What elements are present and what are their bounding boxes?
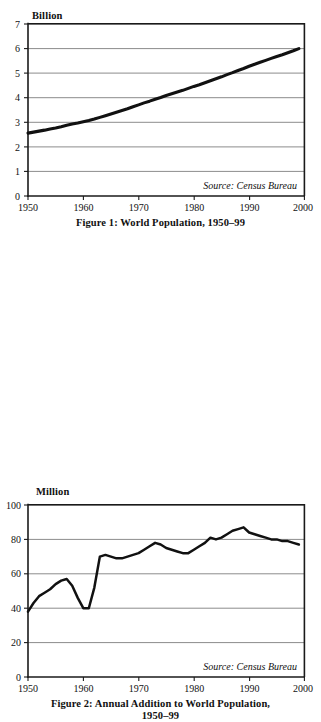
figure-1-caption: Figure 1: World Population, 1950–99 [0, 217, 321, 229]
figure-1: Billion [0, 0, 321, 243]
y-tick-label: 7 [15, 19, 20, 30]
y-tick-label: 1 [15, 166, 20, 177]
x-tick-label: 1970 [129, 683, 149, 694]
figure-1-gridlines [28, 24, 305, 171]
x-tick-label: 1970 [129, 202, 149, 213]
x-tick-label: 1990 [240, 202, 260, 213]
x-tick-label: 1980 [184, 202, 204, 213]
figure-2-plot: 100 80 60 40 20 0 1950 1960 1970 1980 [0, 483, 321, 696]
y-tick-label: 60 [11, 568, 21, 579]
y-tick-label: 0 [16, 672, 21, 683]
figure-2-caption-line1: Figure 2: Annual Addition to World Popul… [51, 698, 270, 709]
figure-2-data-line [28, 527, 299, 611]
figure-1-data-line [28, 49, 299, 134]
figure-1-x-tick-labels: 1950 1960 1970 1980 1990 2000 [18, 202, 313, 213]
x-tick-label: 1960 [73, 202, 93, 213]
y-tick-label: 100 [6, 500, 21, 511]
figure-2-axes [27, 504, 305, 678]
y-tick-label: 0 [15, 191, 20, 202]
figure-1-y-tick-labels: 7 6 5 4 3 2 1 0 [15, 19, 20, 202]
x-tick-label: 1980 [184, 683, 204, 694]
figure-1-svg: 7 6 5 4 3 2 1 0 1950 1960 [0, 0, 321, 215]
figure-1-plot: 7 6 5 4 3 2 1 0 1950 1960 [0, 0, 321, 215]
figure-1-caption-line1: Figure 1: World Population, 1950–99 [76, 217, 245, 228]
figure-2-caption: Figure 2: Annual Addition to World Popul… [0, 698, 321, 722]
y-tick-label: 40 [11, 603, 21, 614]
figure-2-svg: 100 80 60 40 20 0 1950 1960 1970 1980 [0, 483, 321, 696]
x-tick-label: 1990 [240, 683, 260, 694]
x-tick-label: 1950 [18, 683, 38, 694]
figure-2-source-note: Source: Census Bureau [203, 661, 297, 672]
figure-1-source-note: Source: Census Bureau [203, 180, 297, 191]
figure-2-caption-line2: 1950–99 [0, 710, 321, 722]
y-tick-label: 6 [15, 43, 20, 54]
y-tick-label: 3 [15, 117, 20, 128]
y-tick-label: 80 [11, 534, 21, 545]
y-tick-label: 2 [15, 142, 20, 153]
y-tick-label: 4 [15, 92, 20, 103]
figure-2-y-tick-labels: 100 80 60 40 20 0 [6, 500, 21, 683]
y-tick-label: 20 [11, 637, 21, 648]
figure-2: Million [0, 243, 321, 486]
x-tick-label: 1950 [18, 202, 38, 213]
x-tick-label: 2000 [293, 202, 313, 213]
figure-2-gridlines [28, 505, 305, 643]
x-tick-label: 1960 [73, 683, 93, 694]
y-tick-label: 5 [15, 68, 20, 79]
x-tick-label: 2000 [293, 683, 313, 694]
figure-2-x-tick-labels: 1950 1960 1970 1980 1990 2000 [18, 683, 313, 694]
